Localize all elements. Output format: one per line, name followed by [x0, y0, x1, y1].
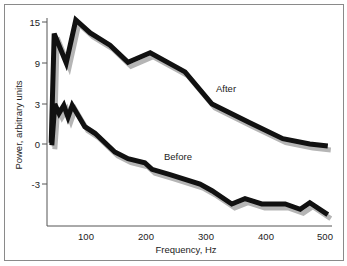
y-tick-label: 0 [35, 139, 40, 150]
x-tick-label: 300 [198, 231, 214, 242]
x-tick-label: 400 [258, 231, 274, 242]
x-tick-label: 100 [78, 231, 94, 242]
x-tick-label: 200 [138, 231, 154, 242]
y-tick-label: 9 [35, 58, 40, 69]
before-annotation: Before [164, 151, 192, 162]
y-tick-label: 3 [35, 99, 40, 110]
y-axis-ticks: 15 9 3 0 -3 [29, 17, 47, 190]
y-tick-label: 15 [29, 17, 40, 28]
x-axis-ticks: 100 200 300 400 500 [78, 231, 333, 242]
series-layer [51, 20, 331, 219]
after-annotation: After [216, 83, 236, 94]
line-chart: 15 9 3 0 -3 100 200 300 400 500 Frequenc… [0, 0, 347, 266]
series-shadow-before [55, 108, 331, 219]
y-tick-label: -3 [32, 179, 40, 190]
y-axis-title: Power, arbitrary units [13, 80, 24, 169]
x-tick-label: 500 [317, 231, 333, 242]
x-axis-title: Frequency, Hz [155, 244, 216, 255]
